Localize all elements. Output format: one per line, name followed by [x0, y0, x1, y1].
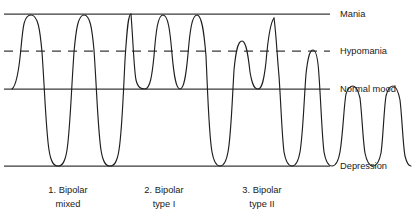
caption-2-line-2: type I	[153, 199, 176, 209]
axis-label-hypomania: Hypomania	[340, 46, 388, 56]
axis-label-mania: Mania	[340, 9, 366, 19]
caption-3-line-2: type II	[249, 199, 274, 209]
caption-3-line-1: 3. Bipolar	[242, 185, 281, 195]
captions-group: 1. Bipolar mixed 2. Bipolar type I 3. Bi…	[48, 185, 281, 209]
level-lines-group	[4, 14, 330, 166]
axis-labels-group: Mania Hypomania Normal mood Depression	[340, 9, 396, 171]
curve-bipolar-mixed	[12, 14, 131, 166]
mood-course-figure: Mania Hypomania Normal mood Depression 1…	[0, 0, 418, 224]
axis-label-normal-mood: Normal mood	[340, 84, 396, 94]
mood-chart-svg: Mania Hypomania Normal mood Depression 1…	[0, 0, 418, 224]
caption-2-line-1: 2. Bipolar	[144, 185, 183, 195]
curve-bipolar-type-i	[131, 14, 274, 166]
axis-label-depression: Depression	[340, 161, 387, 171]
caption-1-line-2: mixed	[56, 199, 81, 209]
caption-1-line-1: 1. Bipolar	[48, 185, 87, 195]
